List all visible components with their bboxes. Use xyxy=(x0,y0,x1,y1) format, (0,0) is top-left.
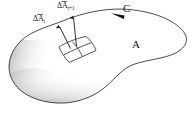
area-vector-i-plus-1 xyxy=(74,18,77,47)
patch-edge-right xyxy=(86,37,96,51)
vector-letter-glyph: A xyxy=(38,14,44,23)
vector-subscript-i-plus-1: i+1 xyxy=(68,5,75,11)
curve-direction-arrowhead xyxy=(111,13,125,19)
vector-symbol-i-plus-1: ΔAi+1 xyxy=(57,2,75,11)
patch-grid-line-vertical xyxy=(73,42,83,57)
label-surface-a: A xyxy=(132,39,140,50)
vector-letter-glyph: A xyxy=(62,1,68,10)
vector-symbol-i: ΔAi xyxy=(33,15,45,24)
vector-letter-a: A xyxy=(62,2,68,10)
surface-area-vector-figure: C A ΔAi ΔAi+1 xyxy=(0,0,193,127)
patch-edge-top xyxy=(59,37,86,48)
label-curve-c: C xyxy=(123,3,130,14)
label-area-vector-i: ΔAi xyxy=(33,15,45,24)
vector-letter-a: A xyxy=(38,15,44,23)
label-area-vector-i-plus-1: ΔAi+1 xyxy=(57,2,75,11)
area-vector-i xyxy=(60,27,71,49)
surface-shading xyxy=(0,40,122,108)
figure-canvas xyxy=(0,0,193,127)
area-element-patch xyxy=(59,37,96,63)
